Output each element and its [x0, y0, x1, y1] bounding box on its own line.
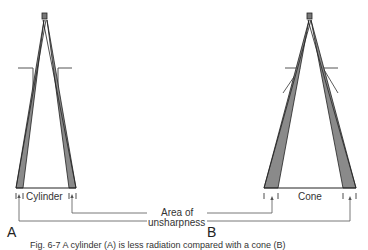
panel-letter-a: A [7, 225, 16, 239]
focal-spot-a [42, 13, 47, 19]
unsharpness-wedge-right-a [47, 20, 76, 188]
figure-caption: Fig. 6-7 A cylinder (A) is less radiatio… [30, 240, 286, 250]
cone-label: Cone [298, 192, 322, 202]
unsharpness-wedge-right-b [311, 20, 356, 188]
panel-letter-b: B [207, 225, 216, 239]
panel-a-cylinder [16, 13, 76, 199]
panel-b-cone [264, 13, 356, 199]
cylinder-label: Cylinder [26, 192, 63, 202]
focal-spot-b [307, 13, 312, 19]
unsharpness-label: unsharpness [148, 218, 205, 228]
